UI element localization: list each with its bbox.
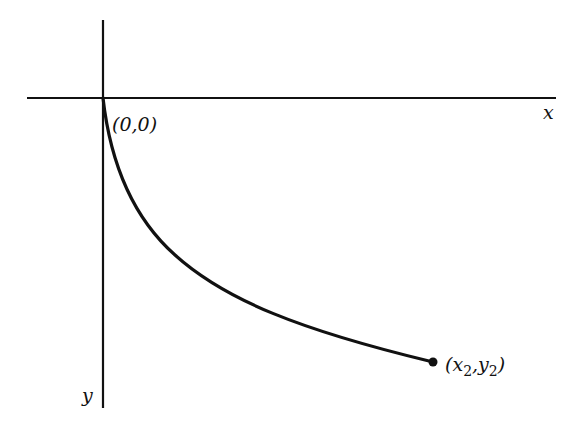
origin-label: (0,0) [112,113,157,135]
x-axis-label: x [543,101,554,123]
endpoint-label: (x2,y2) [445,353,505,379]
endpoint-close-paren: ) [497,353,505,375]
endpoint-x-subscript: 2 [463,363,472,379]
descent-curve [103,98,433,362]
endpoint-y-subscript: 2 [489,363,498,379]
curve-diagram: (0,0) x y (x2,y2) [0,0,580,426]
y-axis-label: y [81,384,93,406]
endpoint-x: x [452,353,463,375]
endpoint-marker [429,358,438,367]
endpoint-y: y [477,353,489,375]
